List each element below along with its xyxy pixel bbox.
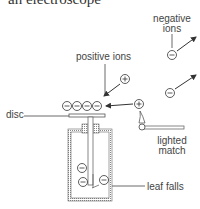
flame-icon <box>139 111 145 123</box>
negative-ions <box>166 51 177 98</box>
lighted-match <box>139 111 184 130</box>
positive-ions <box>121 75 144 109</box>
disc-negative-charges <box>63 102 102 111</box>
arrows <box>104 37 196 106</box>
disc <box>69 114 105 117</box>
electroscope-diagram <box>0 0 200 209</box>
